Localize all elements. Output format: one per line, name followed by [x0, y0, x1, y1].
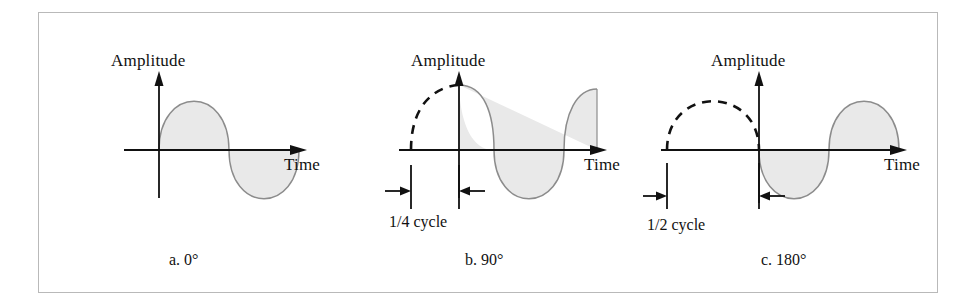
y-axis-arrowhead: [455, 71, 464, 86]
dashed-lead-curve: [411, 85, 459, 150]
x-axis-arrowhead: [590, 145, 607, 155]
wave-fill-body: [459, 85, 597, 199]
y-axis-arrowhead: [155, 71, 164, 86]
cycle-arrow-right-head: [459, 187, 470, 196]
panel-c: Amplitude Time 1/2 cycle c. 180°: [639, 13, 939, 294]
amplitude-axis-label: Amplitude: [411, 51, 486, 71]
cycle-arrow-left-head: [400, 187, 411, 196]
figure-root: Amplitude Time a. 0°: [0, 0, 971, 308]
cycle-arrow-left-head: [656, 192, 667, 201]
y-axis-arrowhead: [755, 71, 764, 86]
panel-c-caption: c. 180°: [761, 251, 807, 269]
time-axis-label: Time: [584, 155, 620, 175]
time-axis-label: Time: [884, 155, 920, 175]
figure-frame: Amplitude Time a. 0°: [38, 12, 938, 293]
panel-b-caption: b. 90°: [465, 251, 503, 269]
wave-positive-lobe: [829, 101, 899, 150]
dashed-lead-curve: [667, 101, 759, 150]
wave-negative-lobe: [759, 150, 829, 199]
time-axis-label: Time: [284, 155, 320, 175]
panel-a-caption: a. 0°: [169, 251, 199, 269]
amplitude-axis-label: Amplitude: [711, 51, 786, 71]
amplitude-axis-label: Amplitude: [111, 51, 186, 71]
wave-positive-lobe: [159, 101, 229, 150]
cycle-measure-label: 1/4 cycle: [389, 213, 447, 231]
cycle-arrow-right-head: [759, 192, 770, 201]
panel-a: Amplitude Time a. 0°: [39, 13, 339, 294]
wave-fill-first-quarter: [459, 85, 494, 150]
cycle-measure-label: 1/2 cycle: [647, 216, 705, 234]
panel-b: Amplitude Time 1/4 cycle b. 90°: [339, 13, 639, 294]
